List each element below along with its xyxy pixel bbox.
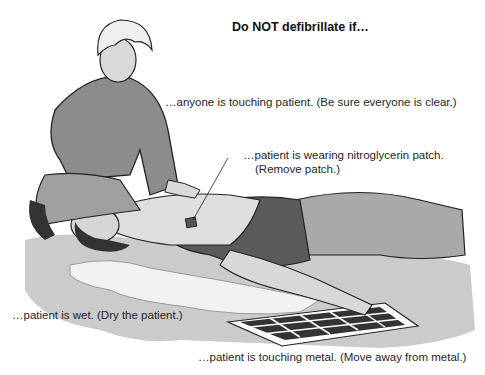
patient-pants — [295, 193, 465, 259]
diagram-title: Do NOT defibrillate if… — [232, 20, 369, 34]
defibrillation-warning-diagram: Do NOT defibrillate if… …anyone is touch… — [0, 0, 485, 375]
callout-nitro-patch-line2: (Remove patch.) — [255, 162, 340, 176]
callout-nitro-patch-line1: …patient is wearing nitroglycerin patch. — [243, 148, 444, 162]
callout-patient-wet: …patient is wet. (Dry the patient.) — [12, 308, 183, 322]
nitroglycerin-patch-icon — [185, 217, 196, 228]
callout-touching-metal: …patient is touching metal. (Move away f… — [198, 350, 466, 364]
callout-touching-patient: …anyone is touching patient. (Be sure ev… — [165, 95, 457, 109]
